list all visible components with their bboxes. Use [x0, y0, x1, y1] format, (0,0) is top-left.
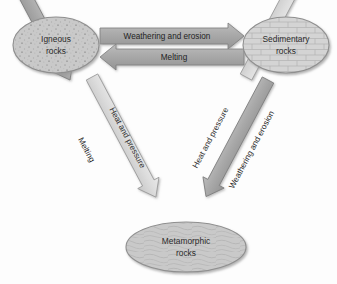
node-sedimentary-rocks[interactable]: Sedimentary rocks [243, 17, 329, 73]
node-igneous-rocks[interactable]: Igneous rocks [13, 17, 99, 73]
node-metamorphic-rocks[interactable]: Metamorphic rocks [126, 222, 246, 272]
arrow-label-melting-top: Melting [161, 53, 188, 62]
metamorphic-rocks-label-line2: rocks [176, 248, 196, 258]
rock-cycle-canvas: Weathering and erosion Melting Melting H… [0, 0, 337, 284]
igneous-rocks-label-line1: Igneous [41, 34, 71, 44]
metamorphic-rocks-label-line1: Metamorphic [162, 236, 210, 246]
igneous-rocks-ellipse [13, 17, 99, 73]
sedimentary-rocks-ellipse [243, 17, 329, 73]
arrow-label-heat-pressure-left: Heat and pressure [108, 106, 148, 170]
arrow-label-melting-left: Melting [76, 136, 97, 164]
rock-cycle-diagram: Weathering and erosion Melting Melting H… [0, 0, 337, 284]
sedimentary-rocks-label-line1: Sedimentary [262, 34, 310, 44]
arrow-label-weathering-erosion-top: Weathering and erosion [124, 32, 211, 41]
igneous-rocks-label-line2: rocks [46, 46, 66, 56]
sedimentary-rocks-label-line2: rocks [276, 46, 296, 56]
metamorphic-rocks-ellipse [126, 222, 246, 272]
